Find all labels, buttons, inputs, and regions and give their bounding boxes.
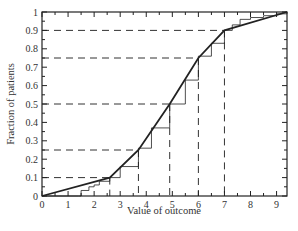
x-tick-label: 1 xyxy=(66,199,71,210)
x-tick-label: 2 xyxy=(92,199,97,210)
y-tick-label: 0.7 xyxy=(26,62,39,73)
y-tick-label: 0 xyxy=(33,191,38,202)
y-tick-label: 0.5 xyxy=(26,99,39,110)
y-axis-label: Fraction of patients xyxy=(5,63,16,145)
x-tick-label: 3 xyxy=(118,199,123,210)
x-tick-label: 0 xyxy=(40,199,45,210)
y-tick-label: 0.6 xyxy=(26,80,39,91)
y-tick-label: 0.3 xyxy=(26,135,39,146)
quantile-guide-lines xyxy=(42,30,224,196)
y-tick-label: 0.1 xyxy=(26,172,39,183)
ticks: 012345678900.10.20.30.40.50.60.70.80.91 xyxy=(26,7,288,211)
y-tick-label: 0.4 xyxy=(26,117,39,128)
y-tick-label: 0.9 xyxy=(26,25,39,36)
x-tick-label: 7 xyxy=(222,199,227,210)
x-axis-label: Value of outcome xyxy=(127,205,201,216)
x-tick-label: 9 xyxy=(274,199,279,210)
y-tick-label: 0.2 xyxy=(26,154,39,165)
y-tick-label: 1 xyxy=(33,7,38,18)
x-tick-label: 8 xyxy=(248,199,253,210)
cdf-chart: 012345678900.10.20.30.40.50.60.70.80.91 … xyxy=(0,0,298,231)
y-tick-label: 0.8 xyxy=(26,43,39,54)
